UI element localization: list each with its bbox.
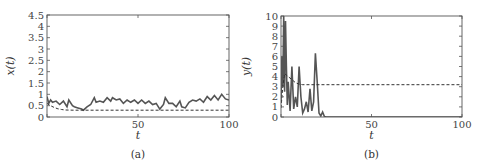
- y-tick-label: 2: [272, 91, 278, 102]
- chart-panel-b: 01234567891050100ty(t)(b): [240, 11, 472, 161]
- x-axis-label: t: [136, 129, 141, 142]
- y-tick-label: 1.5: [28, 78, 44, 89]
- subfigure-caption: (b): [364, 148, 379, 160]
- chart-panel-a: 00.511.522.533.544.550100tx(t)(a): [4, 10, 239, 161]
- x-tick-label: 100: [219, 119, 238, 130]
- y-tick-label: 6: [272, 51, 278, 62]
- y-tick-label: 4: [38, 21, 44, 32]
- y-tick-label: 1: [38, 89, 44, 100]
- y-tick-label: 10: [265, 11, 278, 22]
- x-axis-label: t: [369, 129, 374, 142]
- y-tick-label: 3: [38, 44, 44, 55]
- y-tick-label: 5: [272, 61, 278, 72]
- y-tick-label: 4.5: [28, 10, 44, 21]
- y-tick-label: 7: [272, 41, 278, 52]
- y-axis-label: y(t): [240, 57, 253, 77]
- y-tick-label: 0.5: [28, 100, 44, 111]
- y-tick-label: 9: [272, 21, 278, 32]
- y-tick-label: 4: [272, 71, 278, 82]
- y-tick-label: 3.5: [28, 32, 44, 43]
- y-tick-label: 2.5: [28, 55, 44, 66]
- x-tick-label: 100: [452, 119, 471, 130]
- y-tick-label: 2: [38, 66, 44, 77]
- figure: 00.511.522.533.544.550100tx(t)(a) 012345…: [0, 0, 482, 164]
- solid-series-line: [281, 16, 462, 117]
- y-tick-label: 1: [272, 101, 278, 112]
- subfigure-caption: (a): [131, 148, 145, 160]
- y-tick-label: 0: [272, 112, 278, 123]
- solid-series-line: [47, 94, 229, 110]
- y-tick-label: 8: [272, 31, 278, 42]
- y-tick-label: 0: [38, 112, 44, 123]
- y-tick-label: 3: [272, 81, 278, 92]
- y-axis-label: x(t): [4, 56, 17, 75]
